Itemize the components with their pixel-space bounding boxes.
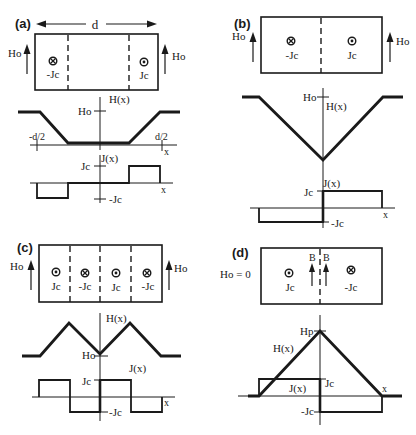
svg-text:Jc: Jc	[325, 377, 334, 389]
panel-d: (d) Ho = 0 B B Jc -Jc	[220, 245, 402, 425]
svg-text:x: x	[164, 146, 169, 157]
svg-text:B: B	[309, 252, 316, 263]
svg-text:J(x): J(x)	[323, 177, 340, 190]
current-out-of-page-icon	[140, 58, 148, 66]
svg-text:-Jc: -Jc	[109, 193, 122, 205]
current-label: Jc	[347, 49, 356, 61]
current-label: Jc	[285, 281, 294, 293]
current-into-page-icon	[287, 37, 295, 45]
svg-text:Hp: Hp	[300, 325, 314, 337]
current-label: -Jc	[345, 281, 358, 293]
applied-field-left: Ho	[8, 44, 31, 74]
svg-text:Ho: Ho	[78, 105, 92, 117]
svg-text:Ho: Ho	[396, 35, 410, 47]
panel-b: (b) Ho Ho -Jc Jc Ho H(x)	[232, 16, 410, 229]
panel-label-b: (b)	[234, 16, 251, 31]
current-label: Jc	[51, 280, 60, 292]
svg-text:H(x): H(x)	[109, 93, 130, 106]
field-profile-plot: H(x) Ho	[22, 312, 181, 421]
applied-field-label: Ho = 0	[220, 268, 251, 280]
panel-label-c: (c)	[17, 240, 33, 255]
svg-text:Ho: Ho	[174, 262, 188, 274]
applied-field-left: Ho	[232, 30, 257, 62]
panel-a: (a) d Ho Ho -Jc	[8, 16, 186, 205]
svg-text:x: x	[161, 184, 166, 195]
panel-label-a: (a)	[15, 16, 31, 31]
current-profile-plot: J(x) Jc -Jc x	[250, 177, 395, 229]
panel-c: (c) Ho Ho Jc -Jc Jc	[10, 240, 188, 421]
svg-text:Ho: Ho	[82, 349, 96, 361]
current-profile-plot: J(x) Jc -Jc x	[32, 362, 175, 418]
svg-text:J(x): J(x)	[101, 152, 118, 165]
svg-text:-Jc: -Jc	[109, 406, 122, 418]
svg-text:Ho: Ho	[8, 47, 22, 59]
bean-model-figure: (a) d Ho Ho -Jc	[0, 0, 416, 435]
svg-text:Ho: Ho	[303, 91, 317, 103]
current-profile-plot: J(x) Jc -Jc	[259, 377, 382, 417]
current-profile-plot: J(x) Jc -Jc x	[30, 152, 173, 205]
current-into-page-icon	[143, 269, 151, 277]
current-label: Jc	[111, 281, 120, 293]
svg-text:x: x	[164, 397, 169, 408]
width-label: d	[92, 17, 99, 32]
field-profile-plot: H(x) Ho -d/2 d/2 x	[18, 93, 180, 157]
svg-text:Ho: Ho	[10, 260, 24, 272]
svg-text:J(x): J(x)	[129, 362, 146, 375]
slab-box	[261, 17, 382, 73]
current-into-page-icon	[81, 269, 89, 277]
svg-text:Ho: Ho	[172, 50, 186, 62]
current-out-of-page-icon	[348, 37, 356, 45]
svg-text:Ho: Ho	[232, 30, 246, 42]
current-into-page-icon	[49, 57, 57, 65]
induction-arrow-right: B	[323, 252, 330, 286]
width-arrow: d	[36, 17, 157, 32]
svg-text:B: B	[323, 252, 330, 263]
svg-text:Jc: Jc	[304, 186, 313, 198]
current-out-of-page-icon	[285, 269, 293, 277]
svg-text:J(x): J(x)	[289, 382, 306, 395]
svg-text:H(x): H(x)	[106, 312, 127, 325]
applied-field-right: Ho	[166, 260, 188, 290]
svg-text:H(x): H(x)	[273, 342, 294, 355]
current-into-page-icon	[347, 266, 355, 274]
svg-text:-Jc: -Jc	[331, 217, 344, 229]
svg-text:Jc: Jc	[81, 160, 90, 172]
current-label: Jc	[139, 69, 148, 81]
svg-text:d/2: d/2	[155, 131, 168, 142]
applied-field-right: Ho	[162, 44, 186, 74]
induction-arrow-left: B	[309, 252, 316, 286]
svg-text:Jc: Jc	[82, 375, 91, 387]
applied-field-right: Ho	[387, 32, 410, 62]
svg-text:-Jc: -Jc	[301, 405, 314, 417]
slab-box	[261, 248, 382, 304]
panel-label-d: (d)	[232, 245, 249, 260]
current-label: -Jc	[79, 280, 92, 292]
svg-text:-d/2: -d/2	[29, 131, 45, 142]
svg-text:x: x	[383, 209, 388, 220]
svg-text:H(x): H(x)	[326, 100, 347, 113]
current-label: -Jc	[286, 49, 299, 61]
current-label: -Jc	[142, 280, 155, 292]
svg-text:x: x	[382, 383, 387, 394]
current-out-of-page-icon	[112, 269, 120, 277]
current-out-of-page-icon	[52, 268, 60, 276]
applied-field-left: Ho	[10, 260, 35, 290]
current-label: -Jc	[47, 68, 60, 80]
